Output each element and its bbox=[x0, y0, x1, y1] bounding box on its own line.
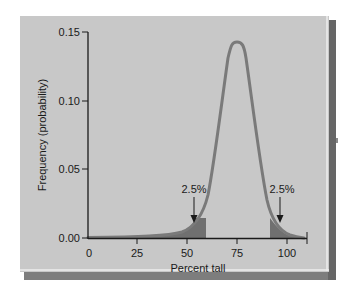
y-tick-0.10: 0.10 bbox=[59, 95, 80, 107]
x-tick-50: 50 bbox=[181, 247, 193, 259]
y-tick-0.00: 0.00 bbox=[59, 232, 80, 244]
x-tick-100: 100 bbox=[278, 247, 296, 259]
x-tick-0: 0 bbox=[86, 247, 92, 259]
left-tail-label: 2.5% bbox=[181, 183, 206, 195]
plot-area: 0.15 0.10 0.05 0.00 0 25 50 75 100 Perce… bbox=[0, 0, 356, 302]
right-tail-label: 2.5% bbox=[269, 183, 294, 195]
panel-shadow-right-full bbox=[328, 20, 336, 280]
y-tick-0.15: 0.15 bbox=[59, 26, 80, 38]
x-axis-label: Percent tall bbox=[170, 262, 225, 274]
y-tick-0.05: 0.05 bbox=[59, 163, 80, 175]
y-axis-label: Frequency (probability) bbox=[36, 79, 48, 192]
x-tick-75: 75 bbox=[231, 247, 243, 259]
x-tick-25: 25 bbox=[131, 247, 143, 259]
